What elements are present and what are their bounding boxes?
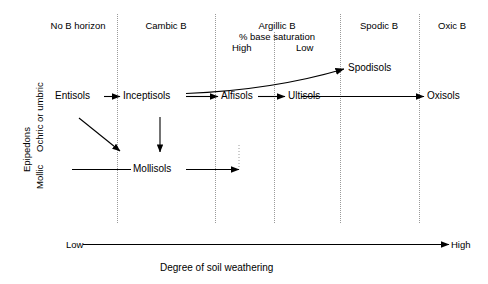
node-inceptisols: Inceptisols	[123, 91, 170, 101]
node-oxisols: Oxisols	[427, 91, 460, 101]
column-divider-5	[419, 14, 420, 223]
column-divider-1	[117, 14, 118, 223]
soil-weathering-diagram: No B horizon Cambic B Argillic B % base …	[0, 0, 488, 284]
column-subheader-low: Low	[296, 43, 313, 53]
column-header-oxic-b: Oxic B	[422, 21, 482, 31]
axis-cap-high: High	[451, 240, 471, 250]
column-header-no-b-horizon: No B horizon	[42, 21, 114, 31]
column-divider-4	[340, 14, 341, 223]
column-subheader-base-saturation: % base saturation	[224, 32, 330, 42]
axis-label-ochric-or-umbric: Ochric or umbric	[35, 82, 45, 152]
node-ultisols: Ultisols	[288, 91, 320, 101]
figure-caption: Degree of soil weathering	[160, 263, 273, 273]
column-header-cambic-b: Cambic B	[130, 21, 202, 31]
node-spodisols: Spodisols	[348, 63, 391, 73]
axis-cap-low: Low	[66, 240, 83, 250]
column-divider-3	[274, 32, 275, 223]
axis-label-epipedons: Epipedons	[22, 127, 32, 172]
axis-label-mollic: Mollic	[35, 165, 45, 189]
column-header-spodic-b: Spodic B	[343, 21, 415, 31]
node-alfisols: Alfisols	[221, 91, 253, 101]
column-divider-2	[215, 14, 216, 223]
edge-entisols-to-mollisols	[79, 118, 120, 151]
node-entisols: Entisols	[55, 91, 90, 101]
node-mollisols: Mollisols	[133, 164, 171, 174]
edge-inceptisols-to-spodisols	[186, 69, 344, 94]
column-subheader-high: High	[232, 43, 252, 53]
column-header-argillic-b: Argillic B	[241, 21, 313, 31]
